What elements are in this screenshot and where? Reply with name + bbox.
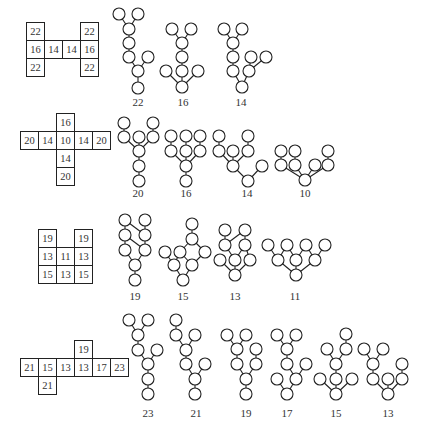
tree-diagram (160, 23, 204, 93)
tree-label: 14 (242, 187, 253, 199)
tree-node-circle (180, 145, 192, 157)
tree-node-circle (231, 343, 243, 355)
tree-label: 14 (236, 96, 247, 108)
grid-cell: 16 (26, 40, 45, 59)
tree-node-circle (133, 131, 145, 143)
tree-label: 11 (290, 290, 301, 302)
tree-label: 21 (191, 407, 202, 419)
grid-cell: 13 (74, 247, 93, 266)
tree-node-circle (192, 65, 204, 77)
tree-node-circle (176, 81, 188, 93)
tree-node-circle (213, 130, 225, 142)
tree-node-circle (194, 130, 206, 142)
tree-node-circle (227, 65, 239, 77)
grid-cell: 21 (38, 376, 57, 395)
tree-node-circle (239, 224, 251, 236)
tree-node-circle (180, 358, 192, 370)
grid-cell: 20 (56, 167, 75, 186)
tree-node-circle (271, 329, 283, 341)
grid-cell: 22 (80, 58, 99, 77)
tree-node-circle (221, 329, 233, 341)
tree-node-circle (309, 254, 321, 266)
tree-node-circle (236, 23, 248, 35)
tree-node-circle (290, 269, 302, 281)
tree-node-circle (240, 373, 252, 385)
grid-cell: 14 (62, 40, 81, 59)
tree-node-circle (322, 159, 334, 171)
tree-node-circle (290, 254, 302, 266)
tree-node-circle (180, 175, 192, 187)
tree-node-circle (242, 130, 254, 142)
grid-cell: 14 (38, 131, 57, 150)
tree-diagram (165, 130, 206, 187)
tree-node-circle (174, 246, 186, 258)
tree-node-circle (367, 373, 379, 385)
grid-cell: 14 (44, 40, 63, 59)
tree-diagram (214, 224, 256, 281)
tree-node-circle (142, 388, 154, 400)
tree-node-circle (227, 51, 239, 63)
tree-node-circle (229, 269, 241, 281)
tree-node-circle (382, 388, 394, 400)
grid-cell: 22 (80, 22, 99, 41)
tree-label: 16 (178, 96, 189, 108)
grid-cell: 20 (92, 131, 111, 150)
grid-cell: 13 (56, 358, 75, 377)
tree-label: 13 (383, 407, 394, 419)
tree-diagram (123, 314, 163, 400)
tree-node-circle (219, 239, 231, 251)
tree-node-circle (330, 373, 342, 385)
grid-cell: 11 (56, 247, 75, 266)
tree-node-circle (166, 23, 178, 35)
tree-node-circle (189, 373, 201, 385)
tree-label: 10 (300, 187, 311, 199)
tree-node-circle (281, 343, 293, 355)
tree-node-circle (186, 259, 198, 271)
tree-node-circle (139, 229, 151, 241)
tree-node-circle (170, 329, 182, 341)
tree-node-circle (396, 358, 408, 370)
grid-cell: 13 (56, 265, 75, 284)
tree-node-circle (123, 23, 135, 35)
tree-node-circle (240, 388, 252, 400)
grid-cell: 19 (74, 229, 93, 248)
tree-node-circle (382, 373, 394, 385)
tree-node-circle (227, 160, 239, 172)
tree-node-circle (176, 65, 188, 77)
tree-node-circle (242, 175, 254, 187)
tree-node-circle (132, 344, 144, 356)
tree-node-circle (160, 65, 172, 77)
tree-node-circle (300, 239, 312, 251)
tree-node-circle (132, 329, 144, 341)
tree-node-circle (176, 37, 188, 49)
tree-diagram (113, 8, 154, 94)
tree-node-circle (242, 145, 254, 157)
tree-node-circle (271, 373, 283, 385)
tree-node-circle (358, 343, 370, 355)
grid-cell: 19 (38, 229, 57, 248)
tree-label: 13 (230, 290, 241, 302)
tree-diagram (118, 117, 159, 187)
tree-node-circle (319, 239, 331, 251)
tree-label: 23 (143, 407, 154, 419)
tree-node-circle (180, 344, 192, 356)
tree-node-circle (129, 274, 141, 286)
tree-diagram (358, 343, 408, 400)
tree-node-circle (185, 23, 197, 35)
tree-node-circle (142, 314, 154, 326)
tree-node-circle (231, 358, 243, 370)
tree-node-circle (213, 145, 225, 157)
tree-diagram (159, 218, 211, 286)
tree-node-circle (199, 358, 211, 370)
grid-cell: 15 (74, 265, 93, 284)
tree-label: 15 (331, 407, 342, 419)
tree-node-circle (123, 37, 135, 49)
tree-node-circle (123, 51, 135, 63)
tree-node-circle (186, 233, 198, 245)
tree-node-circle (346, 373, 358, 385)
tree-node-circle (275, 159, 287, 171)
tree-node-circle (132, 8, 144, 20)
tree-node-circle (170, 314, 182, 326)
tree-node-circle (330, 388, 342, 400)
tree-diagram (271, 329, 312, 400)
